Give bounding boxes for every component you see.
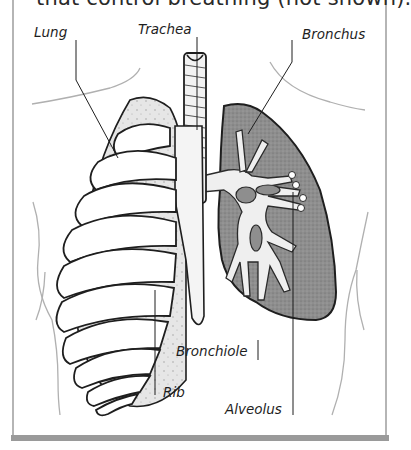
right-lung (202, 104, 336, 320)
label-bronchus: Bronchus (302, 26, 365, 42)
label-trachea: Trachea (138, 21, 192, 37)
label-alveolus: Alveolus (225, 401, 282, 417)
label-lung: Lung (34, 24, 67, 40)
label-bronchiole: Bronchiole (176, 343, 248, 359)
label-rib: Rib (163, 384, 185, 400)
